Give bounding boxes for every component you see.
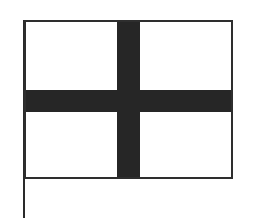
cross-horizontal-bar [26, 90, 231, 112]
flag [24, 20, 233, 179]
